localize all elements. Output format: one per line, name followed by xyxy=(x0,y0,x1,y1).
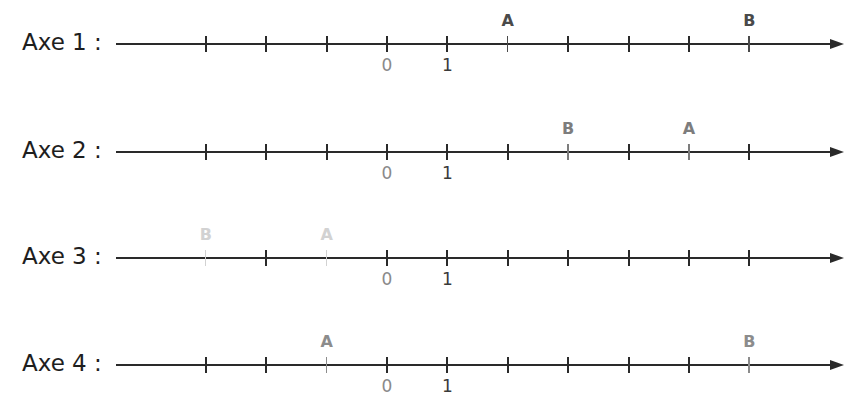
axis-label: Axe 3 : xyxy=(22,245,102,268)
tick-mark xyxy=(205,357,207,373)
tick-mark xyxy=(567,144,569,160)
tick-label-0: 0 xyxy=(377,271,397,288)
tick-mark xyxy=(265,250,267,266)
tick-label-1: 1 xyxy=(437,57,457,74)
tick-mark xyxy=(205,250,207,266)
tick-mark xyxy=(748,36,750,52)
tick-mark xyxy=(265,357,267,373)
point-label-a: A xyxy=(498,13,518,29)
tick-mark xyxy=(688,144,690,160)
tick-mark xyxy=(326,357,328,373)
axis-row-2: Axe 2 : 01BA xyxy=(0,102,853,202)
tick-mark xyxy=(446,36,448,52)
tick-mark xyxy=(265,36,267,52)
tick-mark xyxy=(446,357,448,373)
axis-line xyxy=(116,151,834,153)
axis-line xyxy=(116,364,834,366)
point-label-a: A xyxy=(679,121,699,137)
tick-mark xyxy=(567,357,569,373)
point-label-a: A xyxy=(317,227,337,243)
axis-line xyxy=(116,43,834,45)
tick-mark xyxy=(507,144,509,160)
axis-label: Axe 2 : xyxy=(22,139,102,162)
tick-mark xyxy=(326,144,328,160)
point-label-b: B xyxy=(739,13,759,29)
tick-label-0: 0 xyxy=(377,378,397,395)
tick-mark xyxy=(205,36,207,52)
tick-mark xyxy=(386,36,388,52)
arrow-head-icon xyxy=(830,39,844,49)
point-label-b: B xyxy=(558,121,578,137)
tick-mark xyxy=(688,357,690,373)
tick-mark xyxy=(507,357,509,373)
tick-mark xyxy=(748,250,750,266)
tick-mark xyxy=(386,250,388,266)
tick-label-1: 1 xyxy=(437,271,457,288)
tick-mark xyxy=(748,144,750,160)
tick-mark xyxy=(628,357,630,373)
tick-mark xyxy=(567,250,569,266)
point-label-b: B xyxy=(196,227,216,243)
tick-label-0: 0 xyxy=(377,165,397,182)
tick-mark xyxy=(205,144,207,160)
axis-label: Axe 4 : xyxy=(22,352,102,375)
tick-mark xyxy=(628,36,630,52)
tick-mark xyxy=(628,144,630,160)
tick-mark xyxy=(265,144,267,160)
arrow-head-icon xyxy=(830,360,844,370)
tick-mark xyxy=(386,357,388,373)
tick-label-1: 1 xyxy=(437,165,457,182)
axis-label: Axe 1 : xyxy=(22,31,102,54)
tick-mark xyxy=(688,250,690,266)
tick-mark xyxy=(326,250,328,266)
axis-row-3: Axe 3 : 01BA xyxy=(0,208,853,308)
tick-mark xyxy=(628,250,630,266)
tick-mark xyxy=(446,250,448,266)
axis-row-1: Axe 1 : 01AB xyxy=(0,0,853,94)
point-label-b: B xyxy=(739,334,759,350)
tick-mark xyxy=(748,357,750,373)
tick-mark xyxy=(688,36,690,52)
tick-mark xyxy=(386,144,388,160)
tick-label-1: 1 xyxy=(437,378,457,395)
arrow-head-icon xyxy=(830,147,844,157)
point-label-a: A xyxy=(317,334,337,350)
tick-mark xyxy=(326,36,328,52)
tick-label-0: 0 xyxy=(377,57,397,74)
tick-mark xyxy=(446,144,448,160)
tick-mark xyxy=(567,36,569,52)
tick-mark xyxy=(507,250,509,266)
tick-mark xyxy=(507,36,509,52)
axis-row-4: Axe 4 : 01AB xyxy=(0,315,853,408)
arrow-head-icon xyxy=(830,253,844,263)
axis-line xyxy=(116,257,834,259)
